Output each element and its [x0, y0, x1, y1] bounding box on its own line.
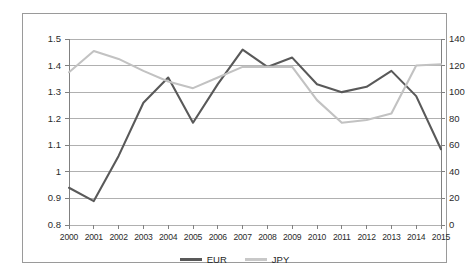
x-tick-label: 2013 — [378, 232, 404, 242]
chart-legend: EUR JPY — [23, 254, 446, 265]
x-tick-label: 2002 — [106, 232, 132, 242]
y-left-tick-label: 1.1 — [23, 140, 61, 150]
series-line-jpy — [69, 51, 441, 123]
x-tick-label: 2003 — [130, 232, 156, 242]
y-left-tick-label: 1.5 — [23, 34, 61, 44]
y-left-tick-label: 0.9 — [23, 193, 61, 203]
legend-label-eur: EUR — [207, 254, 227, 265]
y-right-tick-label: 40 — [449, 167, 460, 177]
y-left-tick-label: 1.2 — [23, 114, 61, 124]
x-tick-label: 2014 — [403, 232, 429, 242]
y-right-tick-label: 120 — [449, 61, 465, 71]
y-left-tick-label: 1 — [23, 167, 61, 177]
legend-item-eur[interactable]: EUR — [180, 254, 227, 265]
y-right-tick-label: 0 — [449, 220, 454, 230]
y-right-tick-label: 20 — [449, 193, 460, 203]
x-tick-label: 2008 — [254, 232, 280, 242]
series-line-eur — [69, 50, 441, 201]
y-right-tick-label: 80 — [449, 114, 460, 124]
x-tick-label: 2015 — [428, 232, 454, 242]
y-right-tick-label: 140 — [449, 34, 465, 44]
series-lines — [69, 50, 441, 201]
y-left-tick-label: 0.8 — [23, 220, 61, 230]
legend-swatch-jpy-icon — [245, 258, 267, 260]
x-tick-label: 2001 — [81, 232, 107, 242]
x-tick-label: 2007 — [230, 232, 256, 242]
x-tick-label: 2012 — [354, 232, 380, 242]
chart-container: 0.80.911.11.21.31.41.5 02040608010012014… — [0, 0, 469, 277]
x-tick-label: 2006 — [205, 232, 231, 242]
legend-item-jpy[interactable]: JPY — [245, 254, 289, 265]
legend-swatch-eur-icon — [180, 258, 202, 260]
y-left-tick-label: 1.3 — [23, 87, 61, 97]
y-right-tick-label: 100 — [449, 87, 465, 97]
chart-svg — [69, 39, 441, 225]
x-tick-label: 2011 — [329, 232, 355, 242]
x-tick-label: 2000 — [56, 232, 82, 242]
x-tick-label: 2005 — [180, 232, 206, 242]
x-tick-label: 2004 — [155, 232, 181, 242]
legend-label-jpy: JPY — [272, 254, 289, 265]
y-left-tick-label: 1.4 — [23, 61, 61, 71]
plot-area — [69, 39, 441, 225]
x-tick-label: 2009 — [279, 232, 305, 242]
x-tick-label: 2010 — [304, 232, 330, 242]
y-right-tick-label: 60 — [449, 140, 460, 150]
chart-frame: 0.80.911.11.21.31.41.5 02040608010012014… — [22, 13, 447, 263]
